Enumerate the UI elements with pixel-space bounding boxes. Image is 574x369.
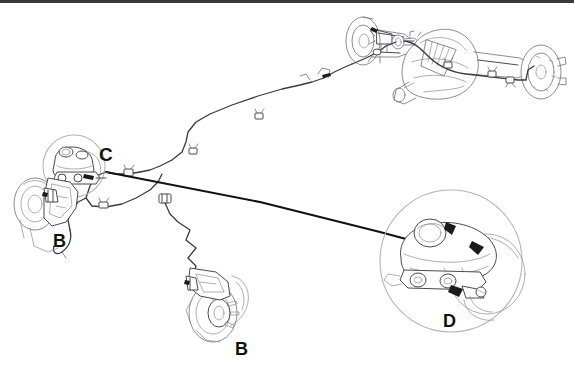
rear-to-front-main-line (140, 64, 352, 172)
line-junction-block (159, 194, 171, 203)
brake-line-network (68, 64, 352, 300)
callout-label-c: C (99, 145, 113, 164)
callout-label-b-left: B (53, 232, 67, 250)
line-clip (99, 202, 108, 208)
line-bracket (300, 68, 331, 80)
front-right-hub (184, 268, 248, 342)
differential-housing (393, 29, 478, 104)
diagram-artwork: .ln { fill:none; stroke:#4a4a52; stroke-… (0, 0, 574, 369)
line-clip (189, 148, 197, 154)
leader-line-d (106, 172, 432, 246)
front-left-hub (14, 178, 78, 258)
master-cylinder-d (384, 219, 496, 320)
line-clip (255, 113, 263, 119)
rear-axle-assembly (346, 17, 566, 104)
callout-label-b-bottom: B (235, 340, 249, 358)
brake-system-diagram: .ln { fill:none; stroke:#4a4a52; stroke-… (0, 0, 574, 369)
callout-label-d: D (443, 312, 457, 330)
